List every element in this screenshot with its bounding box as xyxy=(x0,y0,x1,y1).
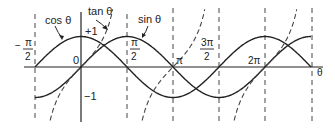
sin-label: sin θ xyxy=(138,13,161,25)
tick-label-2pi: 2π xyxy=(248,55,261,66)
svg-text:π: π xyxy=(25,37,32,48)
tick-label-3pi-half: 3π 2 xyxy=(200,37,214,62)
tick-label-neg-pi-half: − π 2 xyxy=(15,37,33,62)
minus-one-label: −1 xyxy=(84,90,97,102)
cos-arrow-icon xyxy=(59,35,64,40)
origin-label: 0 xyxy=(73,54,79,66)
svg-text:−: − xyxy=(15,40,21,51)
svg-text:2: 2 xyxy=(131,51,137,62)
svg-text:2: 2 xyxy=(204,51,210,62)
svg-text:2: 2 xyxy=(25,51,31,62)
tick-label-pi: π xyxy=(176,55,183,66)
trig-function-graph: cos θ tan θ sin θ +1 −1 0 − π 2 π 2 π 3π… xyxy=(0,0,335,129)
cos-label: cos θ xyxy=(45,14,71,26)
svg-text:3π: 3π xyxy=(201,37,214,48)
tick-label-pi-half: π 2 xyxy=(130,37,140,62)
theta-axis-label: θ xyxy=(317,67,323,78)
plus-one-label: +1 xyxy=(85,25,98,37)
tan-label: tan θ xyxy=(88,5,112,17)
svg-text:π: π xyxy=(131,37,138,48)
